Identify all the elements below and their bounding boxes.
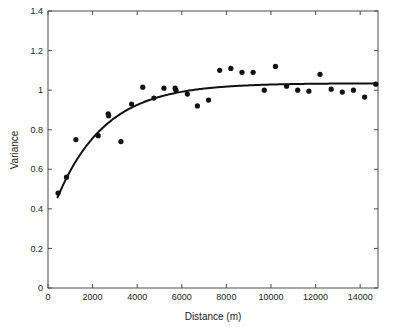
data-point bbox=[373, 82, 378, 87]
data-point bbox=[228, 66, 233, 71]
data-point bbox=[251, 70, 256, 75]
y-axis-title: Variance bbox=[9, 130, 20, 169]
data-point bbox=[140, 85, 145, 90]
data-point bbox=[362, 94, 367, 99]
data-point bbox=[306, 89, 311, 94]
x-tick-label: 2000 bbox=[83, 292, 103, 302]
x-tick-label: 8000 bbox=[216, 292, 236, 302]
data-point bbox=[129, 101, 134, 106]
y-tick-label: 1.2 bbox=[30, 46, 43, 56]
data-point bbox=[217, 68, 222, 73]
data-point bbox=[317, 72, 322, 77]
data-point bbox=[273, 64, 278, 69]
data-point bbox=[151, 95, 156, 100]
data-point bbox=[185, 92, 190, 97]
y-tick-label: 1.4 bbox=[30, 6, 43, 16]
x-tick-label: 0 bbox=[45, 292, 50, 302]
variogram-figure: 02000400060008000100001200014000 00.20.4… bbox=[0, 0, 393, 327]
y-tick-label: 0.6 bbox=[30, 164, 43, 174]
x-tick-label: 10000 bbox=[258, 292, 283, 302]
data-point bbox=[284, 84, 289, 89]
data-point bbox=[73, 137, 78, 142]
data-point bbox=[96, 133, 101, 138]
data-point bbox=[329, 87, 334, 92]
y-tick-label: 0.4 bbox=[30, 204, 43, 214]
data-point bbox=[351, 88, 356, 93]
data-point bbox=[161, 86, 166, 91]
x-tick-label: 14000 bbox=[348, 292, 373, 302]
data-point bbox=[239, 70, 244, 75]
y-tick-label: 1 bbox=[38, 85, 43, 95]
x-axis-title: Distance (m) bbox=[185, 311, 242, 322]
x-tick-label: 12000 bbox=[303, 292, 328, 302]
data-point bbox=[64, 175, 69, 180]
y-tick-label: 0.8 bbox=[30, 125, 43, 135]
data-point bbox=[195, 103, 200, 108]
y-tick-label: 0.2 bbox=[30, 244, 43, 254]
data-point bbox=[262, 88, 267, 93]
data-point bbox=[340, 90, 345, 95]
figure-background bbox=[0, 0, 393, 327]
data-point bbox=[206, 97, 211, 102]
data-point bbox=[173, 88, 178, 93]
y-tick-label: 0 bbox=[38, 283, 43, 293]
data-point bbox=[118, 139, 123, 144]
chart-canvas: 02000400060008000100001200014000 00.20.4… bbox=[0, 0, 393, 327]
x-tick-label: 6000 bbox=[172, 292, 192, 302]
x-tick-label: 4000 bbox=[127, 292, 147, 302]
data-point bbox=[55, 190, 60, 195]
data-point bbox=[295, 88, 300, 93]
data-point bbox=[106, 113, 111, 118]
